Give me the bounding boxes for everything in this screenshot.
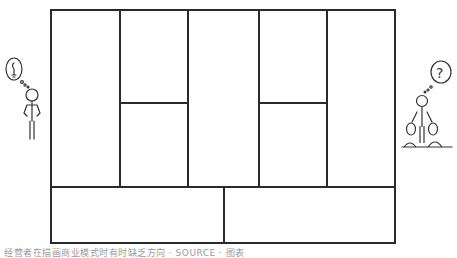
lightbulb-thought-person-icon [2, 55, 48, 159]
question-money-person-icon: ? [400, 57, 456, 161]
block-customer-segments [328, 11, 394, 186]
block-revenue-streams [225, 188, 394, 242]
block-key-partners [52, 11, 119, 186]
frame-right [394, 9, 396, 244]
caption-text: 经营者在描画商业模式时有时缺乏方向 · SOURCE · 图表 [4, 248, 245, 258]
block-key-resources [121, 104, 187, 186]
block-cost-structure [52, 188, 223, 242]
block-channels [260, 104, 326, 186]
block-key-activities [121, 11, 187, 102]
svg-text:?: ? [436, 65, 443, 81]
block-customer-relationships [260, 11, 326, 102]
block-value-propositions [189, 11, 258, 186]
